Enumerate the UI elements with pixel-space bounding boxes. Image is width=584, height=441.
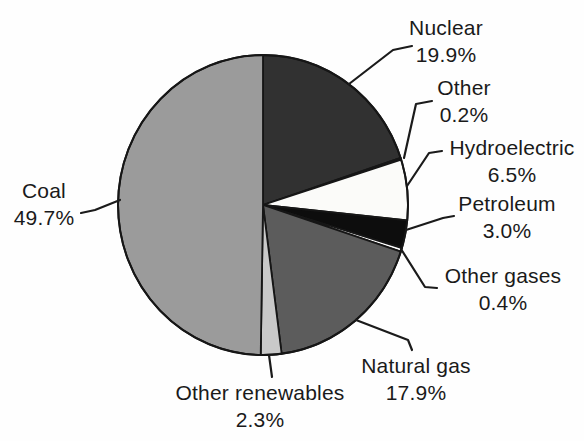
slice-label-coal: Coal 49.7% — [14, 177, 75, 231]
pie-slices-group — [118, 55, 408, 355]
leader-line-nuclear — [349, 46, 412, 84]
slice-percentage: 49.7% — [14, 204, 75, 231]
slice-name: Other — [437, 74, 491, 101]
pie-chart-figure: Nuclear 19.9% Other 0.2% Hydroelectric 6… — [0, 0, 584, 441]
slice-percentage: 0.2% — [437, 101, 491, 128]
slice-label-hydroelectric: Hydroelectric 6.5% — [449, 134, 574, 188]
slice-percentage: 0.4% — [445, 289, 562, 316]
slice-name: Other gases — [445, 262, 562, 289]
leader-line-petroleum — [406, 216, 454, 230]
slice-name: Petroleum — [458, 190, 556, 217]
slice-label-other-gases: Other gases 0.4% — [445, 262, 562, 316]
slice-name: Coal — [14, 177, 75, 204]
leader-line-other — [404, 101, 432, 158]
leader-line-coal — [81, 200, 120, 213]
leader-line-other-gases — [401, 249, 437, 288]
slice-label-nuclear: Nuclear 19.9% — [409, 14, 483, 68]
slice-name: Other renewables — [176, 379, 345, 406]
slice-name: Natural gas — [361, 352, 471, 379]
slice-percentage: 3.0% — [458, 217, 556, 244]
slice-label-other-renewables: Other renewables 2.3% — [176, 379, 345, 433]
slice-label-natural-gas: Natural gas 17.9% — [361, 352, 471, 406]
leader-line-natural-gas — [356, 320, 412, 350]
leader-line-other-renewables — [269, 355, 272, 377]
slice-label-petroleum: Petroleum 3.0% — [458, 190, 556, 244]
slice-percentage: 19.9% — [409, 41, 483, 68]
slice-label-other: Other 0.2% — [437, 74, 491, 128]
slice-percentage: 2.3% — [176, 406, 345, 433]
slice-name: Nuclear — [409, 14, 483, 41]
slice-name: Hydroelectric — [449, 134, 574, 161]
slice-percentage: 17.9% — [361, 379, 471, 406]
leader-line-hydroelectric — [407, 151, 442, 186]
slice-percentage: 6.5% — [449, 161, 574, 188]
pie-slice-coal — [118, 55, 263, 355]
